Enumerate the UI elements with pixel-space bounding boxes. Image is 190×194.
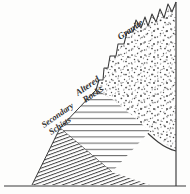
section-canvas: Granite Altered Rocks Secondary Schists (0, 0, 190, 194)
geological-section-figure: Granite Altered Rocks Secondary Schists (0, 0, 190, 194)
